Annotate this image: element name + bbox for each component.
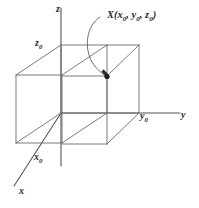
x-axis-line [14, 113, 61, 186]
curved-arrow-line [87, 17, 106, 76]
figure-3d-coordinate-box: z y x z0 y0 x0 X(x0, y0, z0) [0, 0, 199, 208]
y-axis-label: y [181, 110, 185, 120]
z-axis-label: z [56, 4, 60, 14]
x-axis-label: x [19, 186, 24, 196]
point-X-close-paren: ) [153, 9, 157, 20]
diagram-canvas [0, 0, 199, 208]
box-edge-depth-bottom-left [16, 113, 61, 143]
y0-tick-label: y0 [140, 111, 148, 124]
y0-sub: 0 [144, 116, 147, 123]
box-edge-depth-far-bottom [107, 113, 139, 144]
box-edge-depth-far-top [107, 45, 139, 76]
z0-tick-label: z0 [35, 38, 42, 51]
point-X-prefix: X [107, 9, 114, 20]
x0-tick-label: x0 [34, 152, 42, 165]
z0-sub: 0 [39, 43, 42, 50]
box-edge-depth-bottom-right [62, 113, 107, 143]
point-X-marker [104, 74, 109, 79]
point-X-label: X(x0, y0, z0) [107, 10, 156, 23]
x0-sub: 0 [39, 157, 42, 164]
box-edge-depth-top-right [62, 45, 107, 75]
